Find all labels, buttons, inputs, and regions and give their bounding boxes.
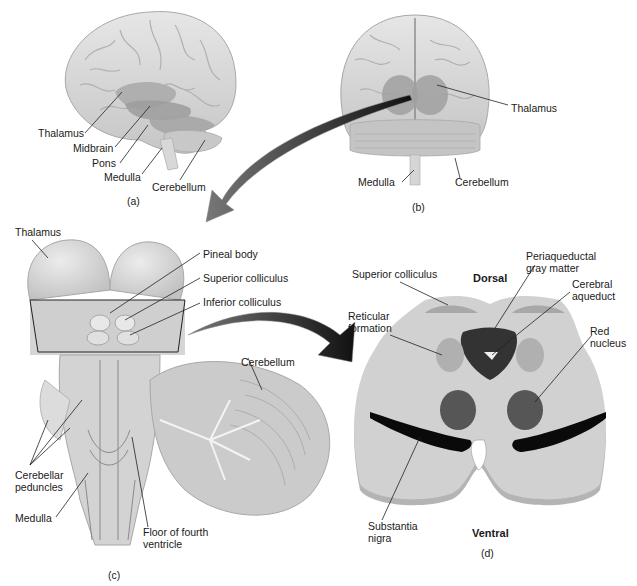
label-d-reticular-formation: Reticular formation [348, 310, 408, 334]
label-c-inferior-colliculus: Inferior colliculus [203, 296, 281, 308]
label-a-thalamus: Thalamus [38, 127, 84, 139]
label-c-cerebellum: Cerebellum [241, 356, 295, 368]
label-b-thalamus: Thalamus [511, 102, 557, 114]
caption-b: (b) [412, 201, 425, 213]
label-c-cerebellar-peduncles: Cerebellar peduncles [15, 469, 80, 493]
panel-b-brain-posterior [341, 15, 489, 185]
label-d-dorsal: Dorsal [473, 272, 507, 284]
label-d-superior-colliculus: Superior colliculus [352, 268, 437, 280]
label-c-medulla: Medulla [15, 512, 52, 524]
caption-c: (c) [108, 569, 120, 581]
label-d-red-nucleus: Red nucleus [590, 325, 635, 349]
caption-d: (d) [481, 547, 494, 559]
label-c-floor-fourth-ventricle: Floor of fourth ventricle [143, 526, 213, 550]
label-b-medulla: Medulla [358, 176, 395, 188]
label-d-substantia-nigra: Substantia nigra [368, 520, 428, 544]
label-c-thalamus: Thalamus [15, 226, 61, 238]
label-d-cerebral-aqueduct: Cerebral aqueduct [572, 278, 632, 302]
label-b-cerebellum: Cerebellum [455, 176, 509, 188]
label-a-cerebellum: Cerebellum [152, 181, 206, 193]
caption-a: (a) [127, 195, 140, 207]
diagram-artwork [0, 0, 637, 586]
label-c-pineal-body: Pineal body [203, 248, 258, 260]
label-a-medulla: Medulla [104, 171, 141, 183]
arrow-c-to-d [188, 312, 355, 362]
label-a-pons: Pons [92, 157, 116, 169]
label-d-ventral: Ventral [472, 527, 509, 539]
label-c-superior-colliculus: Superior colliculus [203, 272, 288, 284]
panel-c-brainstem-dorsal [28, 240, 330, 545]
label-a-midbrain: Midbrain [73, 142, 113, 154]
label-d-periaqueductal-gray: Periaqueductal gray matter [526, 250, 606, 274]
